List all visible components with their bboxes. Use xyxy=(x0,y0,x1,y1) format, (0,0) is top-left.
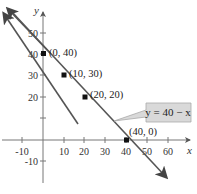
svg-text:50: 50 xyxy=(142,146,152,157)
svg-text:y = 40 − x: y = 40 − x xyxy=(145,106,191,118)
svg-text:-10: -10 xyxy=(25,156,38,167)
svg-text:30: 30 xyxy=(100,146,110,157)
svg-text:(40, 0): (40, 0) xyxy=(129,126,157,138)
svg-text:10: 10 xyxy=(59,146,69,157)
svg-text:(20, 20): (20, 20) xyxy=(90,89,124,101)
point-labels: (0, 40) (10, 30) (20, 20) (40, 0) xyxy=(49,47,157,138)
equation-callout: y = 40 − x xyxy=(114,103,191,122)
x-tick-labels: -10 10 20 30 40 50 60 xyxy=(15,146,173,157)
chart: -10 10 20 30 40 50 60 50 40 30 20 -10 y … xyxy=(0,0,197,194)
svg-text:20: 20 xyxy=(28,92,38,103)
y-axis-label: y xyxy=(33,4,39,16)
x-axis-label: x xyxy=(186,144,192,156)
svg-text:(10, 30): (10, 30) xyxy=(69,68,103,80)
svg-text:60: 60 xyxy=(163,146,173,157)
point-10-30 xyxy=(62,73,67,78)
point-20-20 xyxy=(83,95,88,100)
point-0-40 xyxy=(41,51,46,56)
line-y-equals-40-minus-x xyxy=(4,14,78,124)
svg-text:20: 20 xyxy=(79,146,89,157)
line-segment-up xyxy=(8,9,50,53)
svg-text:40: 40 xyxy=(121,146,131,157)
svg-text:30: 30 xyxy=(28,70,38,81)
svg-text:(0, 40): (0, 40) xyxy=(49,47,77,59)
point-40-0 xyxy=(124,138,129,143)
